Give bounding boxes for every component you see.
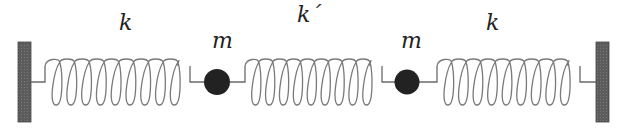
spring-left xyxy=(31,59,204,105)
spring-right xyxy=(419,59,596,105)
mass-right xyxy=(395,70,420,95)
label-spring-middle: k´ xyxy=(297,2,322,27)
right-wall xyxy=(596,42,609,122)
coupled-oscillator-diagram: k m k´ m k xyxy=(0,0,621,128)
label-spring-right: k xyxy=(486,10,499,35)
spring-middle xyxy=(230,59,395,105)
label-mass-left: m xyxy=(212,28,233,53)
left-wall xyxy=(18,42,31,122)
mass-left xyxy=(204,69,230,95)
label-spring-left: k xyxy=(119,10,132,35)
label-mass-right: m xyxy=(401,28,422,53)
